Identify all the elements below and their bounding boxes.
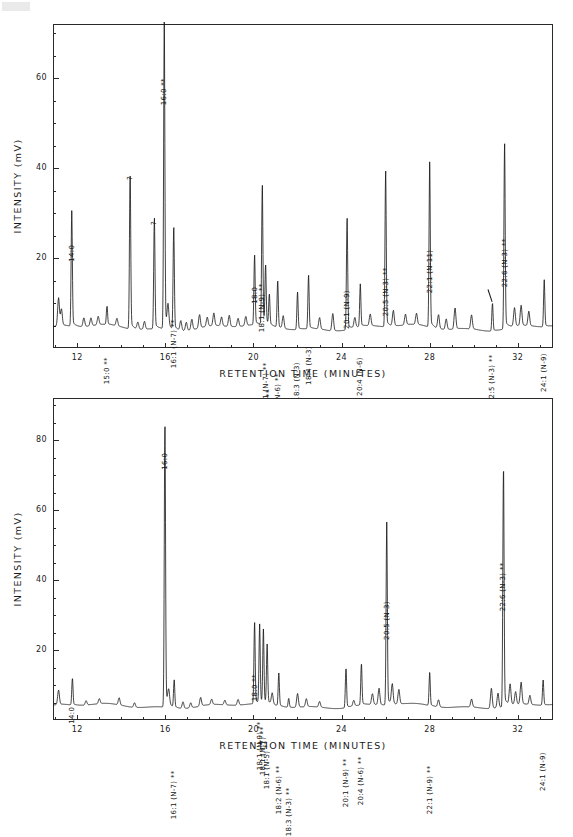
chromatogram-trace	[0, 0, 573, 400]
peak-label: 20:5 (N-3) **	[383, 268, 390, 317]
chromatogram-panel-bottom: INTENSITY (mV) RETENTION TIME (MINUTES) …	[0, 380, 573, 753]
peak-label: 20:4 (N-6) **	[358, 756, 365, 805]
peak-label: 18:1 (N-5) **	[264, 741, 271, 790]
peak-label: 20:5 (N-3)	[384, 601, 391, 640]
peak-label: 18:1 (N-9) **	[259, 283, 266, 332]
peak-label: 18:0 **	[252, 674, 259, 701]
peak-label: 22:6 (N-3) **	[502, 238, 509, 287]
chromatogram-panel-top: INTENSITY (mV) RETENTION TIME (MINUTES) …	[0, 0, 573, 380]
peak-label: 22:1 (N-9) **	[427, 765, 434, 814]
peak-label: ?	[151, 221, 158, 225]
peak-label: 14:0	[69, 244, 76, 261]
peak-label: 18:2 (N-6) **	[276, 765, 283, 814]
peak-label: 22:1 (N-11)	[427, 250, 434, 293]
chromatogram-trace	[0, 380, 573, 780]
peak-label: ?	[127, 176, 134, 180]
peak-label: 20:1 (N-9) **	[343, 758, 350, 807]
peak-label: 18:3 (N-3) **	[286, 788, 293, 837]
peak-label: 20:1 (N-9)	[344, 290, 351, 329]
peak-label: 16:1 (N-7) **	[171, 319, 178, 368]
peak-label: 16:0 **	[161, 78, 168, 105]
peak-label: 24:1 (N-9)	[540, 752, 547, 791]
peak-label: 14:0	[69, 707, 76, 724]
peak-label: 16:1 (N-7) **	[171, 770, 178, 819]
peak-label: 16:0	[162, 453, 169, 470]
peak-label: 22:6 (N-3) **	[500, 562, 507, 611]
